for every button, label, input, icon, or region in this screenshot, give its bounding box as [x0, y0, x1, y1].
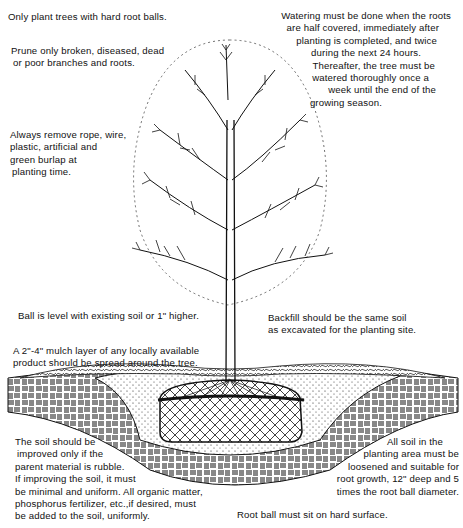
note-line: Prune only broken, diseased, dead: [11, 45, 164, 57]
note-line: be minimal and uniform. All organic matt…: [15, 486, 203, 498]
note-line: or poor branches and roots.: [11, 57, 164, 69]
note-soil-improvement: The soil should be improved only if the …: [15, 436, 203, 523]
note-line: green burlap at: [10, 154, 126, 166]
note-line: parent material is rubble.: [15, 461, 203, 473]
note-backfill: Backfill should be the same soil as exca…: [268, 312, 416, 337]
note-line: Backfill should be the same soil: [268, 312, 416, 324]
note-line: as excavated for the planting site.: [268, 324, 416, 336]
note-line: plastic, artificial and: [10, 141, 126, 153]
note-planting-area: All soil in the planting area must be lo…: [337, 436, 459, 498]
note-line: Root ball must sit on hard surface.: [237, 509, 388, 521]
note-line: If improving the soil, it must: [15, 473, 203, 485]
note-line: A 2"-4" mulch layer of any locally avail…: [13, 345, 199, 357]
tree-trunk: [226, 120, 235, 382]
note-line: All soil in the: [337, 436, 459, 448]
root-ball: [158, 380, 304, 442]
note-line: Watering must be done when the roots: [281, 10, 451, 22]
note-line: during the next 24 hours.: [281, 47, 451, 59]
note-line: times the root ball diameter.: [337, 486, 459, 498]
note-prune: Prune only broken, diseased, dead or poo…: [11, 45, 164, 70]
note-line: The soil should be: [15, 436, 203, 448]
note-line: planting area must be: [337, 448, 459, 460]
note-line: root growth, 12" deep and 5: [337, 473, 459, 485]
note-line: product should be spread around the tree…: [13, 357, 199, 369]
note-line: phosphorus fertilizer, etc.,if desired, …: [15, 498, 203, 510]
note-watering: Watering must be done when the roots are…: [281, 10, 451, 109]
note-line: Only plant trees with hard root balls.: [8, 11, 167, 23]
note-remove-materials: Always remove rope, wire, plastic, artif…: [10, 129, 126, 179]
note-line: planting is completed, and twice: [281, 35, 451, 47]
note-line: be added to the soil, uniformly.: [15, 510, 203, 522]
note-ball-level: Ball is level with existing soil or 1" h…: [18, 310, 199, 322]
note-line: loosened and suitable for: [337, 461, 459, 473]
note-line: Ball is level with existing soil or 1" h…: [18, 310, 199, 322]
note-line: planting time.: [10, 166, 126, 178]
note-hard-root-balls: Only plant trees with hard root balls.: [8, 11, 167, 23]
note-line: Thereafter, the tree must be: [281, 60, 451, 72]
note-line: improved only if the: [15, 448, 203, 460]
note-root-ball-surface: Root ball must sit on hard surface.: [237, 509, 388, 521]
note-line: growing season.: [281, 97, 451, 109]
note-mulch: A 2"-4" mulch layer of any locally avail…: [13, 345, 199, 370]
note-line: are half covered, immediately after: [281, 22, 451, 34]
note-line: week until the end of the: [281, 84, 451, 96]
note-line: watered thoroughly once a: [281, 72, 451, 84]
note-line: Always remove rope, wire,: [10, 129, 126, 141]
